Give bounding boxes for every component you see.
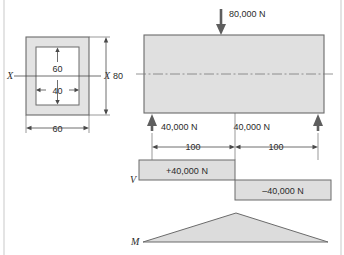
shear-diagram-group: V +40,000 N –40,000 N (130, 160, 331, 200)
inner-height-label: 60 (52, 64, 62, 74)
right-reaction-label: 40,000 N (233, 122, 270, 132)
applied-load-arrowhead (216, 24, 226, 35)
left-reaction-label: 40,000 N (161, 122, 198, 132)
outer-height-arrowhead-bottom (104, 110, 108, 116)
span-arrowhead-right-start (235, 145, 241, 149)
cross-section-group: X X 60 40 80 (6, 37, 123, 134)
axis-label-left: X (6, 70, 14, 81)
engineering-figure: X X 60 40 80 (0, 0, 344, 255)
shear-label-positive: +40,000 N (166, 166, 208, 176)
moment-triangle (143, 213, 328, 242)
outer-width-label: 60 (52, 124, 62, 134)
shear-label-negative: –40,000 N (262, 186, 304, 196)
span-label-right: 100 (268, 142, 283, 152)
axis-label-right: X (103, 70, 111, 81)
span-arrowhead-left-end (230, 145, 236, 149)
span-arrowhead-right-end (313, 145, 319, 149)
right-reaction-arrowhead (313, 114, 323, 126)
shear-axis-label: V (130, 174, 138, 185)
beam-elevation-group: 80,000 N 40,000 N 40,000 N 100 (136, 9, 334, 160)
outer-width-arrowhead-left (26, 126, 32, 130)
applied-load-label: 80,000 N (229, 9, 266, 19)
span-arrowhead-left-start (152, 145, 158, 149)
span-label-left: 100 (185, 142, 200, 152)
outer-height-label: 80 (113, 71, 123, 81)
moment-axis-label: M (130, 236, 140, 247)
outer-width-arrowhead-right (84, 126, 90, 130)
figure-container: X X 60 40 80 (0, 0, 344, 255)
moment-diagram-group: M (130, 213, 328, 247)
inner-width-label: 40 (52, 86, 62, 96)
outer-height-arrowhead-top (104, 37, 108, 43)
left-reaction-arrowhead (147, 114, 157, 126)
